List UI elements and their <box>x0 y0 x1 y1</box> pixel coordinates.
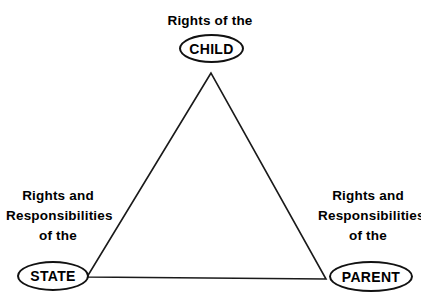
node-child-label: CHILD <box>189 42 233 56</box>
parent-caption-line-3: of the <box>318 226 418 246</box>
child-caption: Rights of the <box>146 11 274 31</box>
node-state-label: STATE <box>30 269 75 283</box>
parent-caption: Rights and Responsibilities of the <box>318 186 418 246</box>
state-caption: Rights and Responsibilities of the <box>6 186 110 246</box>
parent-caption-line-1: Rights and <box>318 186 418 206</box>
node-parent[interactable]: PARENT <box>329 261 413 292</box>
diagram-canvas: Rights of the CHILD Rights and Responsib… <box>0 0 421 307</box>
node-child[interactable]: CHILD <box>179 34 244 63</box>
child-caption-line-1: Rights of the <box>146 11 274 31</box>
state-caption-line-3: of the <box>6 226 110 246</box>
parent-caption-line-2: Responsibilities <box>318 206 418 226</box>
node-parent-label: PARENT <box>342 270 400 284</box>
node-state[interactable]: STATE <box>17 261 89 291</box>
state-caption-line-1: Rights and <box>6 186 110 206</box>
triangle-outline <box>87 73 326 279</box>
state-caption-line-2: Responsibilities <box>6 206 110 226</box>
